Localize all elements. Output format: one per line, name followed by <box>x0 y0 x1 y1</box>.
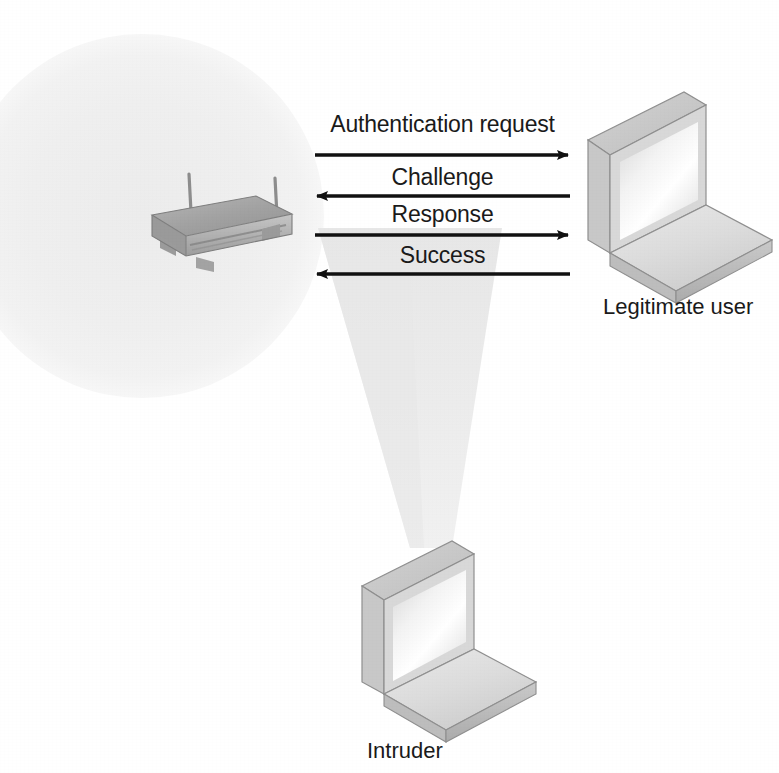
intruder-laptop <box>362 541 536 742</box>
message-label-response: Response <box>315 203 570 226</box>
message-label-challenge: Challenge <box>315 166 570 189</box>
signal-cone-region <box>318 228 502 548</box>
legitimate-user-label: Legitimate user <box>603 296 753 318</box>
intruder-label: Intruder <box>367 740 443 762</box>
legitimate-user-laptop <box>588 92 772 303</box>
message-label-authentication-request: Authentication request <box>315 113 570 136</box>
message-label-success: Success <box>315 244 570 267</box>
diagram-canvas: Authentication request Challenge Respons… <box>0 0 779 773</box>
